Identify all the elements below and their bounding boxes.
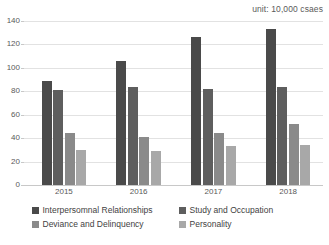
chart-legend: Interpersomnal RelationshipsStudy and Oc… — [0, 203, 329, 231]
y-axis-tick-label: 60 — [11, 111, 20, 119]
bar — [128, 87, 138, 185]
bar — [214, 133, 224, 185]
bar — [139, 137, 149, 185]
bar-group — [42, 21, 87, 185]
bar — [226, 146, 236, 185]
x-axis-tick-label: 2016 — [130, 188, 148, 196]
bar — [53, 90, 63, 185]
legend-swatch-icon — [179, 221, 186, 228]
y-axis-tick-label: 100 — [7, 64, 20, 72]
bar-group — [191, 21, 236, 185]
y-axis-tick-label: 140 — [7, 17, 20, 25]
y-axis-tick — [21, 185, 24, 186]
bar — [277, 87, 287, 185]
gridline — [24, 185, 323, 186]
bar — [203, 89, 213, 185]
bar — [300, 145, 310, 185]
bar — [76, 150, 86, 185]
legend-swatch-icon — [179, 207, 186, 214]
bar — [289, 124, 299, 185]
legend-swatch-icon — [32, 221, 39, 228]
y-axis-tick-label: 20 — [11, 158, 20, 166]
bar — [42, 81, 52, 185]
x-axis-labels: 2015201620172018 — [24, 188, 323, 200]
unit-annotation: unit: 10,000 csaes — [252, 4, 323, 14]
x-axis-tick-label: 2015 — [55, 188, 73, 196]
legend-swatch-icon — [32, 207, 39, 214]
bar — [191, 37, 201, 185]
legend-item[interactable]: Interpersomnal Relationships — [25, 203, 175, 217]
legend-item[interactable]: Personality — [175, 217, 305, 231]
legend-item[interactable]: Study and Occupation — [175, 203, 305, 217]
plot-area: 020406080100120140 — [24, 21, 323, 185]
bar-group — [116, 21, 161, 185]
legend-label: Study and Occupation — [190, 206, 274, 215]
bar — [266, 29, 276, 185]
bar — [151, 151, 161, 185]
bar — [116, 61, 126, 185]
bar-chart: unit: 10,000 csaes 020406080100120140 20… — [0, 0, 329, 245]
y-axis-tick-label: 80 — [11, 87, 20, 95]
y-axis-tick-label: 0 — [16, 181, 20, 189]
x-axis-tick-label: 2017 — [204, 188, 222, 196]
bar-group — [266, 21, 311, 185]
x-axis-tick-label: 2018 — [279, 188, 297, 196]
legend-item[interactable]: Deviance and Delinquency — [25, 217, 175, 231]
bars-layer — [24, 21, 323, 185]
y-axis-tick-label: 40 — [11, 134, 20, 142]
legend-label: Personality — [190, 220, 232, 229]
legend-label: Deviance and Delinquency — [43, 220, 144, 229]
bar — [65, 133, 75, 185]
legend-label: Interpersomnal Relationships — [43, 206, 153, 215]
y-axis-tick-label: 120 — [7, 40, 20, 48]
